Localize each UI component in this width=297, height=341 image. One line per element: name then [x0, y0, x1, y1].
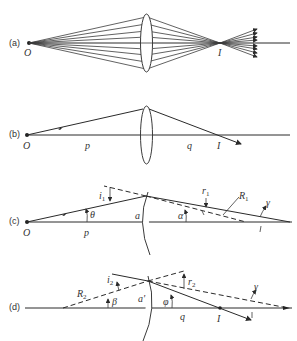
- incidence-angle-label: i2: [107, 274, 114, 287]
- radius-label: R2: [76, 288, 87, 301]
- image-label: I: [216, 313, 221, 324]
- panel-d: (d) R2 i2 β a' r2 φ q I γ: [9, 271, 292, 341]
- object-distance-label: p: [83, 227, 89, 238]
- lens-ray-diagram: (a) O: [0, 0, 297, 341]
- panel-b-label: (b): [9, 129, 20, 139]
- panel-b: (b) O p q I: [9, 106, 290, 164]
- height-label: a': [138, 293, 146, 304]
- incidence-angle-label: i1: [99, 190, 106, 203]
- object-label: O: [23, 140, 30, 151]
- incident-ray: [112, 274, 148, 281]
- refracted-ray: [149, 109, 241, 144]
- beta-label: β: [111, 296, 117, 307]
- refraction-angle-label: r1: [202, 185, 210, 198]
- phi-label: φ: [163, 296, 169, 307]
- radius-line: [63, 281, 148, 308]
- refraction-angle-label: r2: [188, 276, 196, 289]
- object-distance-label: p: [84, 140, 90, 151]
- radius-line: [146, 196, 246, 222]
- image-distance-label: q: [180, 311, 185, 322]
- incident-ray: [27, 196, 146, 222]
- object-label: O: [23, 227, 30, 238]
- radius-label: R1: [238, 190, 249, 203]
- image-label: I: [217, 47, 222, 58]
- gamma-label: γ: [266, 197, 271, 208]
- theta-label: θ: [90, 209, 95, 220]
- gamma-label: γ: [254, 281, 259, 292]
- panel-c: (c) O p a θ i1 α r1 R1 γ: [9, 185, 292, 255]
- image-point: [218, 306, 222, 310]
- image-label: I: [216, 140, 221, 151]
- alpha-label: α: [178, 210, 184, 221]
- panel-d-label: (d): [9, 302, 20, 312]
- panel-a: (a) O: [9, 14, 290, 72]
- incident-ray: [27, 109, 143, 135]
- height-label: a: [135, 210, 140, 221]
- panel-a-label: (a): [9, 38, 20, 48]
- diagram-canvas: (a) O: [0, 0, 297, 341]
- image-distance-label: q: [187, 140, 192, 151]
- lens-surface: [142, 192, 150, 255]
- object-label: O: [24, 47, 31, 58]
- panel-c-label: (c): [9, 216, 20, 226]
